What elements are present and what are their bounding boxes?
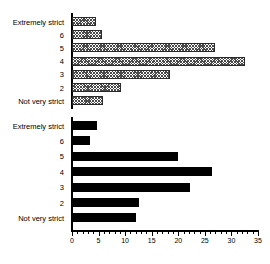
- axis-tick-minor: [120, 231, 121, 234]
- bar-fill: [72, 96, 103, 105]
- plot-area: 05101520253035 Extremely strict65432Not …: [0, 0, 270, 264]
- axis-tick-minor: [146, 231, 147, 234]
- axis-tick-minor: [104, 231, 105, 234]
- axis-tick-major: [258, 231, 259, 236]
- bar: [72, 17, 96, 26]
- category-label: 3: [60, 183, 64, 192]
- bar: [72, 30, 102, 39]
- axis-tick-minor: [130, 231, 131, 234]
- axis-tick-minor: [221, 231, 222, 234]
- category-label: 6: [60, 137, 64, 146]
- axis-tick-minor: [93, 231, 94, 234]
- axis-tick-minor: [247, 231, 248, 234]
- category-label: 5: [60, 152, 64, 161]
- axis-tick-label: 25: [201, 237, 209, 245]
- bar-fill: [72, 183, 190, 192]
- axis-tick-major: [231, 231, 232, 236]
- axis-tick-major: [72, 231, 73, 236]
- axis-tick-label: 30: [228, 237, 236, 245]
- axis-tick-minor: [242, 231, 243, 234]
- axis-tick-minor: [189, 231, 190, 234]
- axis-tick-minor: [83, 231, 84, 234]
- axis-tick-label: 10: [121, 237, 129, 245]
- bar: [72, 57, 245, 66]
- axis-tick-minor: [115, 231, 116, 234]
- bar: [72, 121, 97, 130]
- axis-tick-minor: [136, 231, 137, 234]
- bar: [72, 136, 90, 145]
- axis-tick-label: 20: [174, 237, 182, 245]
- bar-fill: [72, 17, 96, 26]
- axis-tick-minor: [184, 231, 185, 234]
- bar: [72, 152, 178, 161]
- axis-tick-minor: [77, 231, 78, 234]
- axis-tick-minor: [215, 231, 216, 234]
- axis-tick-major: [125, 231, 126, 236]
- bar-fill: [72, 152, 178, 161]
- axis-tick-minor: [194, 231, 195, 234]
- category-label: Extremely strict: [13, 18, 64, 27]
- bar: [72, 83, 121, 92]
- axis-tick-minor: [168, 231, 169, 234]
- bar-fill: [72, 43, 215, 52]
- category-label: 5: [60, 44, 64, 53]
- bar-fill: [72, 30, 102, 39]
- axis-tick-minor: [237, 231, 238, 234]
- axis-tick-major: [205, 231, 206, 236]
- category-label: Extremely strict: [13, 122, 64, 131]
- bar-fill: [72, 136, 90, 145]
- bar: [72, 96, 103, 105]
- category-label: Not very strict: [18, 97, 64, 106]
- bar-fill: [72, 57, 245, 66]
- category-label: 2: [60, 199, 64, 208]
- axis-tick-major: [99, 231, 100, 236]
- category-label: 4: [60, 168, 64, 177]
- axis-tick-minor: [226, 231, 227, 234]
- bar-fill: [72, 213, 136, 222]
- axis-tick-label: 5: [97, 237, 101, 245]
- axis-tick-label: 0: [70, 237, 74, 245]
- bar: [72, 183, 190, 192]
- axis-tick-minor: [141, 231, 142, 234]
- bar: [72, 213, 136, 222]
- axis-tick-minor: [200, 231, 201, 234]
- category-label: Not very strict: [18, 214, 64, 223]
- category-label: 6: [60, 31, 64, 40]
- axis-tick-minor: [162, 231, 163, 234]
- category-label: 3: [60, 70, 64, 79]
- axis-tick-major: [152, 231, 153, 236]
- axis-tick-label: 35: [254, 237, 262, 245]
- axis-tick-minor: [173, 231, 174, 234]
- axis-tick-minor: [88, 231, 89, 234]
- bar-fill: [72, 70, 170, 79]
- bar: [72, 43, 215, 52]
- bar: [72, 70, 170, 79]
- bar-chart: 05101520253035 Extremely strict65432Not …: [0, 0, 270, 264]
- bar: [72, 167, 212, 176]
- category-label: 4: [60, 57, 64, 66]
- axis-tick-minor: [210, 231, 211, 234]
- bar-fill: [72, 83, 121, 92]
- bar-fill: [72, 167, 212, 176]
- axis-tick-label: 15: [148, 237, 156, 245]
- axis-tick-minor: [253, 231, 254, 234]
- bar: [72, 198, 139, 207]
- category-label: 2: [60, 84, 64, 93]
- axis-tick-minor: [157, 231, 158, 234]
- axis-tick-major: [178, 231, 179, 236]
- bar-fill: [72, 198, 139, 207]
- axis-tick-minor: [109, 231, 110, 234]
- bar-fill: [72, 121, 97, 130]
